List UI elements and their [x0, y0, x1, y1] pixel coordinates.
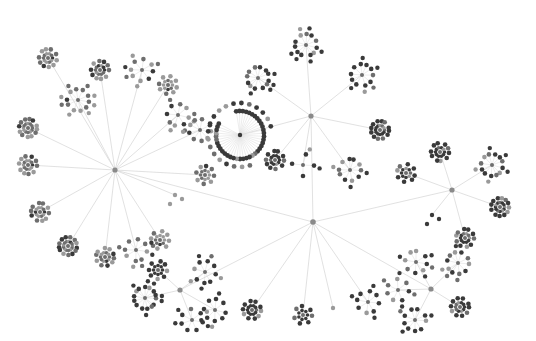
node[interactable] [161, 268, 165, 272]
node[interactable] [152, 231, 157, 236]
node[interactable] [94, 76, 99, 81]
node[interactable] [314, 45, 319, 50]
node[interactable] [104, 74, 109, 79]
node[interactable] [446, 146, 451, 151]
hub-node[interactable] [112, 167, 117, 172]
node[interactable] [131, 265, 135, 269]
node[interactable] [212, 174, 217, 179]
node[interactable] [102, 60, 107, 65]
node[interactable] [159, 265, 163, 269]
node[interactable] [19, 120, 24, 125]
node[interactable] [494, 173, 499, 178]
node[interactable] [247, 69, 252, 74]
node[interactable] [406, 162, 411, 167]
node[interactable] [493, 213, 498, 218]
node[interactable] [258, 65, 263, 70]
node[interactable] [35, 218, 40, 223]
node[interactable] [205, 316, 210, 321]
node[interactable] [371, 309, 376, 314]
node[interactable] [138, 79, 143, 84]
node[interactable] [139, 257, 144, 262]
node[interactable] [282, 158, 287, 163]
sub-hub[interactable] [238, 133, 242, 137]
node[interactable] [502, 203, 506, 207]
node[interactable] [442, 148, 446, 152]
node[interactable] [70, 242, 74, 246]
node[interactable] [140, 306, 145, 311]
sub-hub[interactable] [38, 210, 42, 214]
node[interactable] [295, 50, 300, 55]
node[interactable] [209, 180, 214, 185]
node[interactable] [404, 167, 408, 171]
node[interactable] [405, 267, 410, 272]
node[interactable] [174, 85, 179, 90]
node[interactable] [30, 124, 34, 128]
node[interactable] [398, 255, 402, 259]
sub-hub[interactable] [66, 244, 70, 248]
node[interactable] [207, 299, 212, 304]
node[interactable] [181, 130, 185, 134]
node[interactable] [130, 74, 135, 79]
node[interactable] [408, 250, 413, 255]
node[interactable] [154, 238, 158, 242]
node[interactable] [198, 311, 203, 316]
node[interactable] [350, 294, 354, 298]
node[interactable] [447, 151, 452, 156]
node[interactable] [397, 271, 401, 275]
sub-hub[interactable] [203, 173, 207, 177]
node[interactable] [169, 80, 173, 84]
node[interactable] [203, 169, 207, 173]
node[interactable] [186, 115, 191, 120]
node[interactable] [247, 102, 252, 107]
node[interactable] [369, 130, 374, 135]
node[interactable] [471, 232, 476, 237]
node[interactable] [123, 65, 127, 69]
node[interactable] [132, 294, 137, 299]
node[interactable] [18, 168, 23, 173]
node[interactable] [131, 283, 135, 287]
node[interactable] [294, 57, 298, 61]
node[interactable] [300, 318, 304, 322]
node[interactable] [480, 167, 485, 172]
node[interactable] [243, 302, 248, 307]
node[interactable] [254, 306, 258, 310]
node[interactable] [143, 242, 148, 247]
node[interactable] [17, 161, 22, 166]
node[interactable] [306, 320, 311, 325]
node[interactable] [272, 72, 276, 76]
node[interactable] [240, 165, 245, 170]
sub-hub[interactable] [176, 113, 180, 117]
node[interactable] [197, 260, 202, 265]
node[interactable] [232, 164, 237, 169]
node[interactable] [187, 130, 192, 135]
node[interactable] [293, 40, 298, 45]
node[interactable] [65, 97, 70, 102]
node[interactable] [231, 101, 236, 106]
node[interactable] [467, 262, 472, 267]
node[interactable] [212, 264, 217, 269]
sub-hub[interactable] [414, 260, 418, 264]
node[interactable] [160, 294, 164, 298]
node[interactable] [124, 75, 128, 79]
node[interactable] [35, 164, 40, 169]
node[interactable] [317, 166, 321, 170]
node[interactable] [189, 279, 193, 283]
node[interactable] [297, 315, 301, 319]
node[interactable] [354, 82, 359, 87]
node[interactable] [31, 118, 36, 123]
node[interactable] [391, 298, 396, 303]
node[interactable] [224, 104, 229, 109]
node[interactable] [95, 258, 100, 263]
node[interactable] [169, 86, 173, 90]
node[interactable] [70, 252, 75, 257]
node[interactable] [192, 267, 197, 272]
node[interactable] [505, 170, 509, 174]
node[interactable] [461, 296, 466, 301]
node[interactable] [265, 162, 270, 167]
node[interactable] [26, 135, 31, 140]
node[interactable] [271, 83, 275, 87]
node[interactable] [292, 316, 297, 321]
node[interactable] [168, 74, 173, 79]
node[interactable] [293, 44, 298, 49]
node[interactable] [132, 60, 137, 65]
